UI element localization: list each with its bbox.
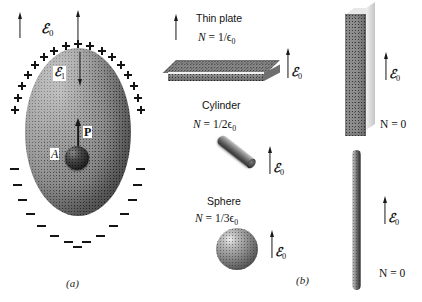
- cylinder-formula: N = 1/2ϵ0: [193, 119, 236, 132]
- sphere-title: Sphere: [207, 196, 241, 207]
- polarization-label: P: [83, 126, 92, 138]
- external-field-label-a: ℰ0: [41, 22, 53, 38]
- field-label-thin-plate: ℰ0: [291, 66, 302, 81]
- long-slab-shape: [345, 8, 375, 136]
- external-field-arrow-b-top: [172, 14, 180, 40]
- panel-label-b: (b): [296, 275, 309, 286]
- field-label-cylinder: ℰ0: [273, 162, 284, 177]
- thin-plate-title: Thin plate: [196, 13, 242, 24]
- cylinder-shape: [215, 134, 256, 170]
- sphere-formula: N = 1/3ϵ0: [195, 213, 238, 226]
- sphere-shape: [216, 228, 258, 270]
- thin-plate-shape: [168, 60, 280, 86]
- internal-field-label: ℰ1: [53, 66, 66, 81]
- cylinder-title: Cylinder: [202, 100, 241, 111]
- figure-depolarization-factors: ℰ0: [0, 0, 422, 302]
- external-field-arrow-center: [74, 10, 82, 40]
- needle-shape: [352, 150, 361, 290]
- field-label-needle: ℰ0: [388, 212, 399, 227]
- polarization-arrow: [73, 118, 83, 148]
- field-label-sphere: ℰ0: [275, 246, 286, 261]
- field-label-long-slab: ℰ0: [389, 68, 400, 83]
- panel-label-a: (a): [66, 278, 79, 289]
- external-field-arrow-left: [16, 12, 24, 38]
- cavity-label: A: [50, 148, 59, 160]
- thin-plate-formula: N = 1/ϵ0: [198, 32, 235, 45]
- needle-formula: N = 0: [379, 268, 405, 280]
- cavity-sphere-a: [65, 146, 89, 170]
- internal-field-arrow: [76, 52, 84, 86]
- long-slab-formula: N = 0: [380, 119, 406, 131]
